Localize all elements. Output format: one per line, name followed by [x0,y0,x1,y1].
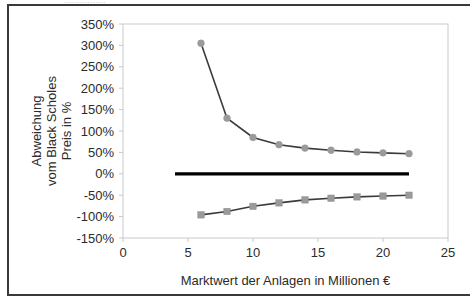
x-tick-label: 0 [119,245,126,260]
x-axis-title: Marktwert der Anlagen in Millionen € [181,273,391,288]
data-marker-layer [198,40,413,218]
data-point-marker [302,145,309,152]
data-point-marker [328,147,335,154]
x-tick-label: 10 [246,245,260,260]
data-series-layer [175,43,409,215]
y-tick-label: 250% [81,59,115,74]
y-axis-title: Abweichungvom Black ScholesPreis in % [29,76,74,186]
data-point-marker [328,195,334,201]
y-tick-label: 200% [81,81,115,96]
y-axis-title-line: vom Black Scholes [44,76,59,186]
y-tick-label: -100% [76,209,114,224]
data-point-marker [380,149,387,156]
line-chart: -150%-100%-50%0%50%100%150%200%250%300%3… [0,0,474,300]
data-point-marker [250,134,257,141]
y-tick-label: -50% [84,188,115,203]
y-axis-title-line: Preis in % [59,101,74,160]
data-point-marker [276,200,282,206]
x-tick-label: 20 [376,245,390,260]
y-tick-label: 50% [88,145,114,160]
y-tick-label: 300% [81,38,115,53]
y-tick-label: 0% [95,166,114,181]
data-point-marker [354,194,360,200]
data-point-marker [224,115,231,122]
data-point-marker [224,208,230,214]
y-axis-title-line: Abweichung [29,96,44,167]
y-tick-label: 350% [81,17,115,32]
data-point-marker [380,193,386,199]
plot-area-border [123,24,448,238]
data-point-marker [250,203,256,209]
y-tick-label: 150% [81,102,115,117]
data-point-marker [354,149,361,156]
data-point-marker [302,197,308,203]
data-point-marker [406,192,412,198]
data-point-marker [406,150,413,157]
data-point-marker [276,141,283,148]
x-tick-label: 25 [441,245,455,260]
chart-area: -150%-100%-50%0%50%100%150%200%250%300%3… [0,0,474,300]
data-point-marker [198,212,204,218]
y-tick-label: 100% [81,124,115,139]
data-point-marker [198,40,205,47]
y-tick-label: -150% [76,231,114,246]
axis-tick-marks [119,24,448,242]
x-axis-tick-labels: 0510152025 [119,245,455,260]
x-tick-label: 15 [311,245,325,260]
y-axis-tick-labels: -150%-100%-50%0%50%100%150%200%250%300%3… [76,17,114,246]
series-line [201,43,409,153]
x-tick-label: 5 [184,245,191,260]
figure-container: ................ -150%-100%-50%0%50%100%… [0,0,474,300]
